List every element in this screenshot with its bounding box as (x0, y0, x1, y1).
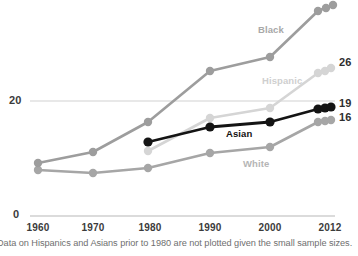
y-axis-tick-0: 0 (13, 208, 19, 220)
data-point-white-1990 (206, 149, 214, 157)
x-axis-tick-1960: 1960 (26, 222, 49, 233)
data-point-black-1970 (89, 148, 97, 156)
data-point-black-2000 (266, 53, 274, 61)
end-value-hispanic: 26 (339, 56, 352, 68)
data-point-white-2000 (266, 143, 274, 151)
data-point-asian-2012 (326, 102, 335, 111)
data-point-black-1960 (34, 159, 42, 167)
data-point-white-1970 (89, 169, 97, 177)
end-value-white: 16 (339, 111, 352, 123)
end-value-asian: 19 (339, 97, 352, 109)
x-axis-tick-1970: 1970 (81, 222, 104, 233)
data-point-white-1980 (144, 164, 152, 172)
series-line-white (34, 116, 335, 177)
series-line-hispanic (144, 64, 335, 155)
y-axis-tick-20: 20 (9, 94, 22, 106)
data-point-hispanic-2012 (327, 64, 335, 72)
chart-container: 20 0 1960 1970 1980 1990 2000 2012 Black… (0, 0, 358, 256)
data-point-black-1980 (144, 118, 152, 126)
data-point-white-2012 (327, 116, 335, 124)
series-line-asian (143, 102, 335, 146)
x-axis-tick-2000: 2000 (258, 222, 281, 233)
x-axis-tick-1990: 1990 (198, 222, 221, 233)
data-point-black-2010 (314, 7, 322, 15)
series-label-black: Black (258, 24, 284, 35)
chart-footnote: Data on Hispanics and Asians prior to 19… (0, 238, 358, 248)
x-axis-tick-1980: 1980 (138, 222, 161, 233)
x-axis-tick-2012: 2012 (318, 222, 341, 233)
series-label-white: White (243, 158, 269, 169)
data-point-asian-1980 (143, 137, 152, 146)
series-label-asian: Asian (226, 128, 252, 139)
line-chart-plot (0, 0, 358, 256)
data-point-hispanic-1980 (144, 147, 152, 155)
data-point-asian-1990 (205, 122, 214, 131)
data-point-black-1990 (206, 67, 214, 75)
series-label-hispanic: Hispanic (262, 75, 302, 86)
data-point-black-2012 (329, 1, 337, 9)
data-point-hispanic-2000 (266, 104, 274, 112)
data-point-hispanic-1990 (206, 114, 214, 122)
data-point-asian-2000 (265, 117, 274, 126)
